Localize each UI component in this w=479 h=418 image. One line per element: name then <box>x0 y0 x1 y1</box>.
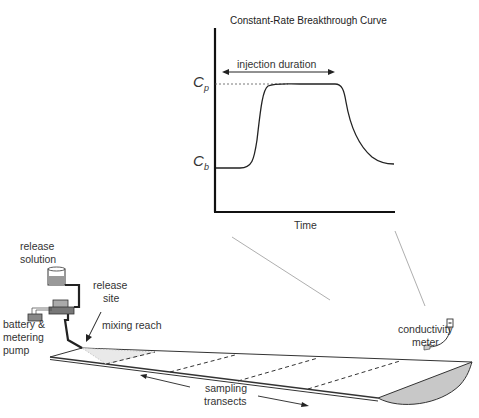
cp-subscript: p <box>203 83 209 93</box>
battery-label-2: metering <box>3 331 44 343</box>
stream-upstream-edge <box>50 348 82 357</box>
sampling-label-1: sampling <box>205 382 247 394</box>
sampling-label-2: transects <box>204 395 247 407</box>
conductivity-label-2: meter <box>412 336 439 348</box>
stream-cross-section <box>378 362 472 404</box>
breakthrough-curve <box>216 84 394 168</box>
arrow-right-icon <box>328 69 335 75</box>
chart-title: Constant-Rate Breakthrough Curve <box>230 15 387 26</box>
injection-duration-label: injection duration <box>237 58 317 70</box>
projection-line-left <box>232 237 330 300</box>
cb-subscript: b <box>204 162 209 172</box>
release-tubing-lower <box>65 312 82 348</box>
container-top <box>48 267 65 271</box>
release-site-label-1: release <box>93 279 128 291</box>
cb-label: C <box>193 152 204 169</box>
arrow-left-icon <box>140 374 147 379</box>
diagram-canvas: Constant-Rate Breakthrough Curve Time C … <box>0 0 479 418</box>
mixing-reach-label: mixing reach <box>102 319 162 331</box>
release-solution-label-2: solution <box>20 253 56 265</box>
sampling-transect-4 <box>308 361 400 389</box>
release-site-label-2: site <box>103 292 120 304</box>
battery-label-3: pump <box>3 344 29 356</box>
stream-channel <box>50 348 472 404</box>
x-axis-label: Time <box>294 219 317 231</box>
transects-arrow-left <box>143 376 190 387</box>
release-site-arrow <box>88 312 101 338</box>
arrow-left-icon <box>222 69 229 75</box>
release-solution-liquid <box>49 276 64 285</box>
pump-base <box>49 307 74 314</box>
cp-label: C <box>193 73 204 90</box>
projection-line-right <box>395 231 425 306</box>
conductivity-label-1: conductivity <box>398 323 454 335</box>
battery-label-1: battery & <box>3 318 45 330</box>
sampling-transect-2 <box>170 355 235 372</box>
release-solution-label-1: release <box>20 240 55 252</box>
transects-arrow-right <box>258 396 305 405</box>
sampling-transect-3 <box>238 358 318 381</box>
arrow-right-icon <box>301 402 309 407</box>
breakthrough-chart: Constant-Rate Breakthrough Curve Time C … <box>193 15 395 231</box>
